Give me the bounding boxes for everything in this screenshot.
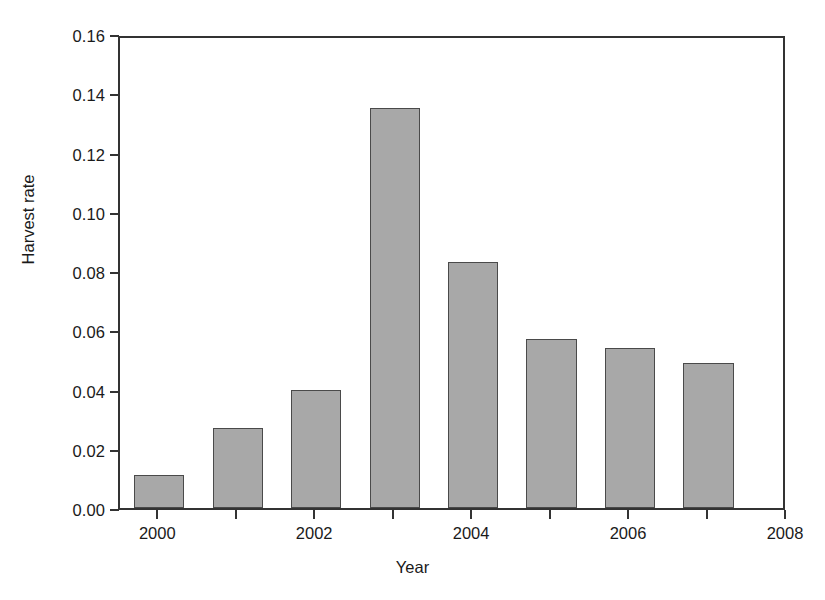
x-tick-mark	[392, 510, 394, 519]
x-tick-mark	[784, 510, 786, 519]
x-tick-mark	[549, 510, 551, 519]
x-tick-label: 2002	[269, 524, 359, 543]
y-tick-label: 0.06	[5, 324, 105, 341]
x-axis-title: Year	[0, 558, 825, 577]
x-tick-mark	[627, 510, 629, 519]
bar-2001	[213, 428, 263, 508]
x-tick-label: 2006	[583, 524, 673, 543]
bar-2000	[134, 475, 184, 508]
harvest-rate-bar-chart: 0.000.020.040.060.080.100.120.140.16 Har…	[0, 0, 825, 600]
y-tick-label: 0.14	[5, 87, 105, 104]
y-axis-title: Harvest rate	[19, 120, 38, 320]
x-tick-label: 2000	[112, 524, 202, 543]
y-tick-label: 0.04	[5, 384, 105, 401]
y-tick-label: 0.02	[5, 443, 105, 460]
x-tick-label: 2004	[426, 524, 516, 543]
x-tick-mark	[156, 510, 158, 519]
bar-2005	[526, 339, 576, 508]
bar-2007	[683, 363, 733, 508]
x-tick-mark	[313, 510, 315, 519]
bar-2003	[370, 108, 420, 508]
x-tick-mark	[235, 510, 237, 519]
y-tick-label: 0.00	[5, 502, 105, 519]
bar-2004	[448, 262, 498, 508]
x-tick-mark	[706, 510, 708, 519]
plot-frame	[118, 36, 785, 510]
x-tick-mark	[470, 510, 472, 519]
bar-2006	[605, 348, 655, 508]
y-tick-label: 0.16	[5, 28, 105, 45]
bar-2002	[291, 390, 341, 509]
x-tick-label: 2008	[740, 524, 825, 543]
plot-area	[120, 38, 783, 508]
